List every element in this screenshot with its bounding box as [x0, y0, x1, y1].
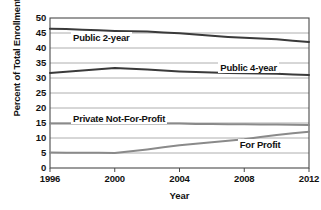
series-label: For Profit [238, 139, 283, 150]
x-tick-label: 2008 [224, 173, 264, 184]
x-axis-title: Year [50, 190, 309, 201]
x-tick-label: 2004 [160, 173, 200, 184]
x-tick-label: 2012 [289, 173, 321, 184]
series-label: Public 2-year [71, 32, 132, 43]
enrollment-line-chart: Percent of Total Enrollment 504540353025… [0, 0, 321, 210]
series-label: Private Not-For-Profit [71, 113, 167, 124]
series-label: Public 4-year [218, 62, 279, 73]
x-tick-label: 2000 [95, 173, 135, 184]
x-tick-label: 1996 [30, 173, 70, 184]
